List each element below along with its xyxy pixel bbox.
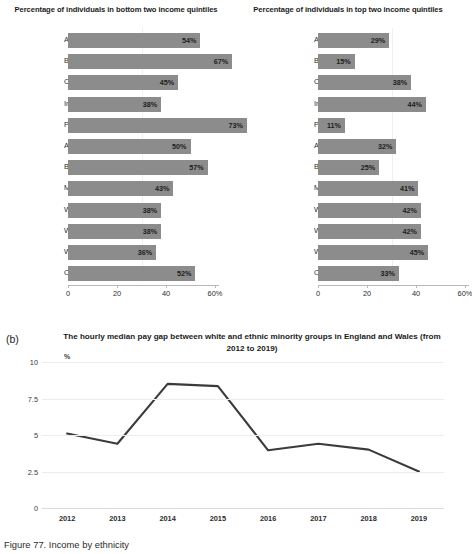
- chart-title: Percentage of individuals in bottom two …: [8, 4, 224, 15]
- x-axis-tick: [465, 285, 466, 288]
- bar-value-label: 29%: [318, 33, 385, 48]
- bar-value-label: 54%: [68, 33, 196, 48]
- y-gridline: [42, 435, 444, 436]
- bar-value-label: 38%: [68, 203, 157, 218]
- bar-row: Indian38%: [0, 94, 232, 114]
- bar-row: Mixed41%: [232, 178, 464, 198]
- bar-row: White British38%: [0, 221, 232, 241]
- x-axis-tick-label: 20: [113, 289, 121, 298]
- bar-value-label: 25%: [318, 160, 375, 175]
- bar-value-label: 15%: [318, 54, 351, 69]
- x-axis-tick-label: 2014: [159, 514, 175, 523]
- bar-row: Pakistani11%: [232, 115, 464, 135]
- x-axis-tick: [416, 285, 417, 288]
- bar-value-label: 57%: [68, 160, 204, 175]
- bar-value-label: 50%: [68, 139, 187, 154]
- x-axis-tick-label: 40: [412, 289, 420, 298]
- x-axis-line: [318, 285, 469, 286]
- x-axis-tick: [68, 285, 69, 288]
- bar-row: Bangladeshi15%: [232, 51, 464, 71]
- bar-chart-top-quintiles: Percentage of individuals in top two inc…: [232, 0, 464, 325]
- x-axis-line: [68, 285, 219, 286]
- bar-value-label: 36%: [68, 245, 152, 260]
- x-axis-tick-label: 0: [316, 289, 320, 298]
- x-axis-tick: [166, 285, 167, 288]
- y-axis-unit-label: %: [64, 353, 70, 360]
- bar-value-label: 38%: [318, 75, 407, 90]
- y-axis-tick-label: 0: [4, 504, 38, 513]
- bar-value-label: 32%: [318, 139, 392, 154]
- y-axis-tick-label: 5: [4, 431, 38, 440]
- panel-a-bar-charts: Percentage of individuals in bottom two …: [0, 0, 464, 325]
- bar-row: Bangladeshi67%: [0, 51, 232, 71]
- bar-value-label: 38%: [68, 224, 157, 239]
- bar-value-label: 45%: [68, 75, 174, 90]
- bar-value-label: 44%: [318, 97, 422, 112]
- bar-value-label: 43%: [68, 181, 169, 196]
- bar-row: Indian44%: [232, 94, 464, 114]
- bar-value-label: 67%: [68, 54, 228, 69]
- bar-value-label: 52%: [68, 266, 191, 281]
- x-axis-tick-label: 2016: [260, 514, 276, 523]
- bar-row: Asian other32%: [232, 136, 464, 156]
- bar-row: Asian29%: [232, 30, 464, 50]
- plot-area-right: Asian29%Bangladeshi15%Chinese38%Indian44…: [232, 28, 464, 296]
- bar-row: Chinese38%: [232, 72, 464, 92]
- bar-value-label: 73%: [68, 118, 243, 133]
- y-axis-tick-label: 10: [4, 358, 38, 367]
- bar-row: Asian other50%: [0, 136, 232, 156]
- bar-chart-bottom-quintiles: Percentage of individuals in bottom two …: [0, 0, 232, 325]
- x-axis-tick: [215, 285, 216, 288]
- bar-row: White38%: [0, 200, 232, 220]
- y-axis-tick-label: 7.5: [4, 394, 38, 403]
- bar-value-label: 33%: [318, 266, 395, 281]
- y-gridline: [42, 362, 444, 363]
- x-axis-tick-label: 2015: [210, 514, 226, 523]
- x-axis-tick-label: 40: [162, 289, 170, 298]
- bar-row: Other33%: [232, 263, 464, 283]
- x-axis-tick: [318, 285, 319, 288]
- bar-row: White other36%: [0, 242, 232, 262]
- y-gridline: [42, 399, 444, 400]
- plot-area-line: % 02.557.5102012201320142015201620172018…: [42, 362, 444, 508]
- bar-row: White British42%: [232, 221, 464, 241]
- bar-value-label: 45%: [318, 245, 424, 260]
- x-axis-tick-label: 2012: [59, 514, 75, 523]
- bar-row: Black57%: [0, 157, 232, 177]
- x-axis-tick: [367, 285, 368, 288]
- y-gridline: [42, 472, 444, 473]
- bar-row: Mixed43%: [0, 178, 232, 198]
- chart-title: Percentage of individuals in top two inc…: [240, 4, 456, 15]
- bar-row: Other52%: [0, 263, 232, 283]
- bar-row: Pakistani73%: [0, 115, 232, 135]
- x-axis-tick-label: 0: [66, 289, 70, 298]
- bar-row: White42%: [232, 200, 464, 220]
- x-axis-tick: [117, 285, 118, 288]
- bar-row: Black25%: [232, 157, 464, 177]
- panel-b-line-chart: (b) The hourly median pay gap between wh…: [0, 325, 464, 535]
- plot-area-left: Asian54%Bangladeshi67%Chinese45%Indian38…: [0, 28, 232, 296]
- x-axis-tick-label: 60%: [208, 289, 223, 298]
- x-axis-tick-label: 2019: [411, 514, 427, 523]
- bar-value-label: 42%: [318, 224, 417, 239]
- bar-value-label: 38%: [68, 97, 157, 112]
- x-axis-tick-label: 2017: [310, 514, 326, 523]
- bar-value-label: 41%: [318, 181, 414, 196]
- bar-value-label: 42%: [318, 203, 417, 218]
- y-axis-tick-label: 2.5: [4, 467, 38, 476]
- x-axis-tick-label: 60%: [458, 289, 472, 298]
- figure-caption: Figure 77. Income by ethnicity: [4, 539, 129, 550]
- bar-value-label: 11%: [318, 118, 341, 133]
- x-axis-tick-label: 20: [363, 289, 371, 298]
- bar-row: White other45%: [232, 242, 464, 262]
- panel-label-b: (b): [6, 333, 19, 345]
- x-axis-tick-label: 2018: [360, 514, 376, 523]
- bar-row: Chinese45%: [0, 72, 232, 92]
- y-gridline: [42, 508, 444, 509]
- x-axis-tick-label: 2013: [109, 514, 125, 523]
- pay-gap-line: [67, 384, 419, 472]
- chart-title: The hourly median pay gap between white …: [58, 331, 446, 354]
- bar-row: Asian54%: [0, 30, 232, 50]
